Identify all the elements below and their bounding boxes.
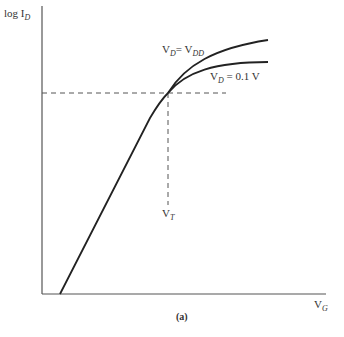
subthreshold-line: [60, 93, 168, 294]
x-axis-label: VG: [314, 298, 328, 313]
figure-caption: (a): [176, 311, 188, 322]
curve-upper-label: VD= VDD: [162, 43, 204, 58]
y-axis-label: log ID: [4, 7, 30, 22]
curve-lower-label: VD = 0.1 V: [210, 70, 260, 85]
threshold-label: VT: [162, 207, 174, 222]
